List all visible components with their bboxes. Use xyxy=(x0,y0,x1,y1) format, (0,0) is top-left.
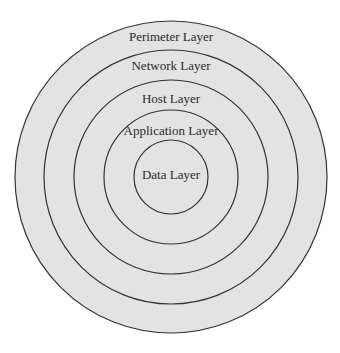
host-layer-label: Host Layer xyxy=(142,91,201,106)
network-layer-label: Network Layer xyxy=(131,58,211,73)
application-layer-label: Application Layer xyxy=(124,123,220,138)
data-layer-label: Data Layer xyxy=(142,167,201,182)
defense-in-depth-diagram: Perimeter Layer Network Layer Host Layer… xyxy=(0,0,340,353)
perimeter-layer-label: Perimeter Layer xyxy=(129,29,214,44)
